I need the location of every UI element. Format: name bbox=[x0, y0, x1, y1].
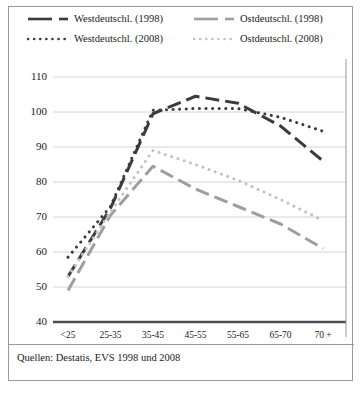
y-axis-tick-label: 70 bbox=[13, 211, 47, 222]
x-axis-tick-label: 55-65 bbox=[227, 330, 249, 341]
x-axis-tick-label: 70 + bbox=[314, 330, 331, 341]
y-axis-tick-label: 100 bbox=[13, 106, 47, 117]
x-axis-tick-label: 45-55 bbox=[184, 330, 206, 341]
y-axis-tick-label: 110 bbox=[13, 71, 47, 82]
y-axis-tick-label: 40 bbox=[13, 316, 47, 327]
y-axis-tick-label: 60 bbox=[13, 246, 47, 257]
y-axis-tick-label: 50 bbox=[13, 281, 47, 292]
x-axis-tick-label: 65-70 bbox=[269, 330, 291, 341]
chart-frame: Westdeutschl. (1998) Ostdeutschl. (1998) bbox=[8, 6, 353, 381]
x-axis-tick-label: <25 bbox=[61, 330, 76, 341]
x-axis-tick-label: 35-45 bbox=[142, 330, 164, 341]
series-line-westdeutschl-1998 bbox=[68, 96, 323, 276]
x-axis-tick-label: 25-35 bbox=[99, 330, 121, 341]
source-divider bbox=[9, 344, 354, 345]
y-axis-tick-label: 90 bbox=[13, 141, 47, 152]
y-axis-tick-label: 80 bbox=[13, 176, 47, 187]
source-note: Quellen: Destatis, EVS 1998 und 2008 bbox=[17, 352, 180, 363]
chart-figure: Westdeutschl. (1998) Ostdeutschl. (1998) bbox=[0, 0, 361, 397]
series-line-ostdeutschl-1998 bbox=[68, 166, 323, 290]
plot-area bbox=[9, 7, 354, 382]
